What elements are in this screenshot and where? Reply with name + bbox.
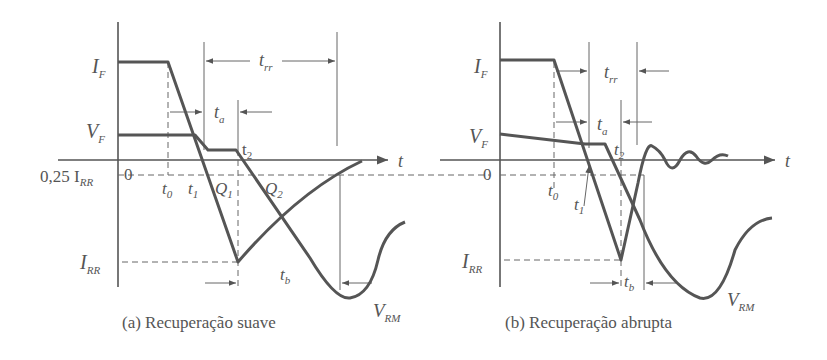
label-t2-b: t2: [614, 140, 625, 161]
label-Q1: Q1: [215, 179, 233, 200]
label-IRR: IRR: [79, 251, 100, 276]
label-trr: trr: [259, 50, 273, 73]
caption-a: (a) Recuperação suave: [122, 313, 276, 332]
panel-b-abrupt-recovery: IF VF 0 IRR t0 t1 t2 ta tb trr VRM t (b)…: [440, 22, 791, 332]
label-VF: VF: [86, 120, 105, 145]
t1-pointer: [584, 166, 589, 206]
label-VF-b: VF: [469, 125, 488, 150]
panel-a-soft-recovery: IF VF 0,25 IRR 0 IRR t0 t1 t2 Q1 Q2 ta t…: [40, 22, 490, 332]
label-quarter-irr: 0,25 IRR: [40, 167, 93, 188]
voltage-waveform-b: [500, 134, 772, 298]
label-t0: t0: [162, 179, 173, 200]
label-zero: 0: [124, 165, 133, 184]
label-t1: t1: [188, 179, 198, 200]
label-IRR-b: IRR: [461, 250, 482, 275]
label-trr-b: trr: [604, 62, 618, 85]
reverse-recovery-diagram: IF VF 0,25 IRR 0 IRR t0 t1 t2 Q1 Q2 ta t…: [0, 0, 827, 360]
label-ta-b: ta: [597, 114, 608, 137]
label-IF: IF: [91, 55, 106, 80]
label-zero-b: 0: [483, 165, 492, 184]
label-ta: ta: [214, 102, 225, 125]
label-t0-b: t0: [548, 181, 559, 202]
caption-b: (b) Recuperação abrupta: [505, 313, 673, 332]
label-Q2: Q2: [265, 179, 283, 200]
label-t2: t2: [242, 140, 252, 161]
label-IF-b: IF: [473, 55, 488, 80]
label-VRM: VRM: [373, 300, 401, 324]
label-tb: tb: [280, 265, 291, 286]
label-VRM-b: VRM: [727, 289, 755, 313]
label-t-axis-b: t: [785, 151, 791, 171]
label-tb-b: tb: [624, 272, 635, 293]
label-t1-b: t1: [574, 195, 584, 216]
current-waveform: [118, 62, 362, 262]
label-t-axis: t: [398, 151, 404, 171]
